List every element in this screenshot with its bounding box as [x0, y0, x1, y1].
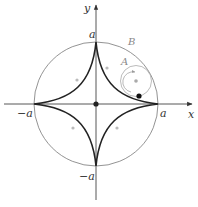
rotation-arrow: [123, 72, 135, 92]
tracing-point: [136, 93, 141, 98]
bottom-cusp-label: −a: [79, 170, 95, 183]
y-axis-label: y: [83, 2, 91, 15]
right-cusp-label: a: [160, 107, 167, 120]
big-circle-label: B: [127, 36, 135, 47]
astroid-marker-sw: [71, 126, 74, 129]
small-circle-label: A: [120, 56, 128, 67]
astroid-marker-nw: [75, 78, 78, 81]
small-circle-center: [134, 79, 138, 83]
astroid-marker-se: [115, 126, 118, 129]
left-cusp-label: −a: [17, 107, 33, 120]
origin-dot: [93, 101, 98, 106]
astroid-marker-ne: [105, 66, 108, 69]
top-cusp-label: a: [89, 28, 96, 41]
astroid-diagram: y x a −a −a a B A: [0, 0, 198, 207]
x-axis-label: x: [188, 108, 195, 121]
